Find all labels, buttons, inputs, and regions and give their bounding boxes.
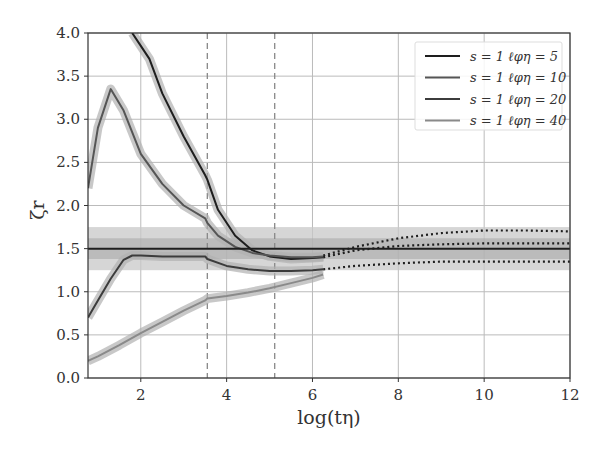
- legend: s = 1 ℓφη = 5s = 1 ℓφη = 10s = 1 ℓφη = 2…: [415, 42, 566, 130]
- chart: 24681012 0.00.51.01.52.02.53.03.54.0 log…: [0, 0, 606, 458]
- x-axis-label: log(tη): [297, 406, 361, 428]
- x-tick-label: 2: [136, 386, 146, 404]
- y-tick-label: 2.0: [56, 197, 80, 215]
- series-line: [132, 33, 323, 259]
- y-tick-label: 2.5: [56, 153, 80, 171]
- y-tick-label: 3.0: [56, 110, 80, 128]
- y-tick-label: 1.0: [56, 283, 80, 301]
- x-tick-label: 12: [560, 386, 579, 404]
- y-tick-label: 0.5: [56, 326, 80, 344]
- series-error-band: [88, 275, 323, 361]
- y-tick-label: 3.5: [56, 67, 80, 85]
- x-tick-label: 6: [308, 386, 318, 404]
- x-tick-label: 10: [475, 386, 494, 404]
- legend-label: s = 1 ℓφη = 20: [470, 92, 566, 107]
- y-tick-label: 0.0: [56, 369, 80, 387]
- x-axis-ticks: 24681012: [136, 378, 580, 404]
- legend-label: s = 1 ℓφη = 10: [470, 70, 566, 85]
- y-axis-ticks: 0.00.51.01.52.02.53.03.54.0: [56, 24, 88, 387]
- legend-label: s = 1 ℓφη = 40: [470, 113, 566, 128]
- legend-label: s = 1 ℓφη = 5: [470, 49, 558, 64]
- y-axis-label: ζr: [26, 199, 48, 219]
- x-tick-label: 4: [222, 386, 232, 404]
- y-tick-label: 4.0: [56, 24, 80, 42]
- y-tick-label: 1.5: [56, 240, 80, 258]
- x-tick-label: 8: [394, 386, 404, 404]
